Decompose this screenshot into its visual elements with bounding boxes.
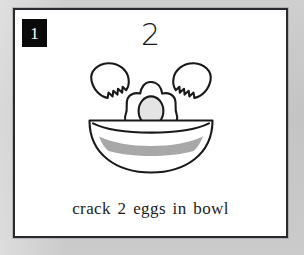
recipe-step-card: 1 2 crack 2 eggs in bowl bbox=[13, 8, 288, 238]
eggshell-half-right bbox=[173, 63, 211, 98]
step-caption: crack 2 eggs in bowl bbox=[15, 199, 286, 219]
crack-eggs-in-bowl-illustration bbox=[81, 60, 221, 175]
quantity-numeral: 2 bbox=[15, 20, 286, 50]
eggshell-half-left bbox=[91, 63, 129, 98]
